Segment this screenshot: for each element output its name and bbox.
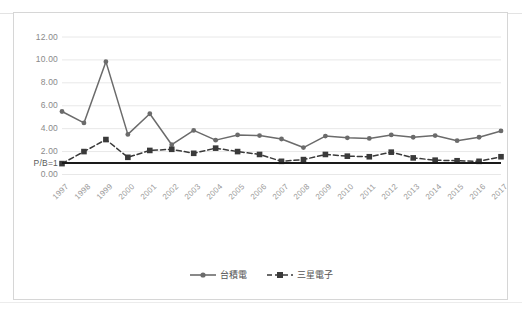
data-point (279, 137, 284, 142)
legend-swatch-circle (190, 270, 216, 280)
legend-item-1[interactable]: 台積電 (190, 268, 247, 281)
data-point (345, 135, 350, 140)
y-axis-tick-label: 8.00 (14, 77, 58, 87)
data-point (235, 149, 241, 155)
data-point (147, 111, 152, 116)
legend-label: 台積電 (220, 268, 247, 281)
data-point (410, 155, 416, 161)
legend-label: 三星電子 (297, 268, 333, 281)
data-point (60, 109, 65, 114)
data-point (367, 154, 373, 160)
scan-artifact-bottom (0, 302, 522, 303)
data-point (499, 129, 504, 134)
data-point (125, 155, 131, 161)
data-point (213, 145, 219, 151)
y-axis-tick-label: 12.00 (14, 32, 58, 42)
legend-item-2[interactable]: 三星電子 (267, 268, 333, 281)
chart-frame: 0.002.004.006.008.0010.0012.00P/B=1 1997… (13, 12, 508, 300)
data-point (455, 138, 460, 143)
data-point (323, 134, 328, 139)
y-axis-tick-label: 4.00 (14, 123, 58, 133)
data-point (257, 133, 262, 138)
data-point (191, 128, 196, 133)
data-point (104, 59, 109, 64)
data-point (125, 132, 130, 137)
data-point (389, 133, 394, 138)
y-axis-tick-label: 2.00 (14, 146, 58, 156)
data-point (169, 146, 175, 152)
data-point (257, 152, 263, 158)
chart-legend: 台積電三星電子 (0, 268, 522, 281)
data-point (235, 133, 240, 138)
data-point (411, 135, 416, 140)
data-point (81, 149, 87, 155)
data-point (191, 151, 197, 157)
data-point (82, 121, 87, 126)
data-point (498, 154, 504, 160)
data-point (147, 148, 153, 154)
screenshot-page: 0.002.004.006.008.0010.0012.00P/B=1 1997… (0, 0, 522, 310)
y-axis-tick-label: 10.00 (14, 54, 58, 64)
data-point (169, 142, 174, 147)
data-point (213, 138, 218, 143)
data-point (301, 157, 307, 163)
data-point (388, 149, 394, 155)
y-axis-tick-label: 0.00 (14, 169, 58, 179)
data-point (301, 145, 306, 150)
reference-line-label: P/B=1 (14, 158, 58, 168)
data-point (323, 152, 329, 158)
data-point (477, 135, 482, 140)
data-point (367, 136, 372, 141)
data-point (103, 137, 109, 143)
chart-plot-area (14, 13, 507, 299)
data-point (433, 133, 438, 138)
data-point (345, 153, 351, 159)
legend-swatch-square (267, 270, 293, 280)
y-axis-tick-label: 6.00 (14, 100, 58, 110)
